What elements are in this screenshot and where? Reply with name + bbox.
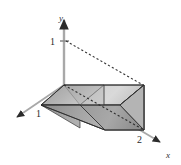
y-tick-1-label: 1 [50, 36, 55, 47]
figure-container: y x 1 1 2 [0, 0, 181, 165]
x-axis-label: x [165, 150, 170, 160]
solid-wedge [41, 82, 144, 130]
y-axis-label: y [58, 13, 63, 23]
dashed-hypotenuse [66, 41, 143, 85]
x-tick-2-label: 2 [137, 134, 142, 145]
three-d-solid-figure: y x 1 1 2 [0, 0, 181, 165]
z-tick-1-label: 1 [36, 108, 41, 119]
